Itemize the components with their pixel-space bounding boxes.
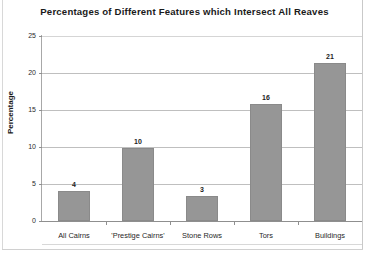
y-tick-mark	[39, 147, 42, 148]
y-tick-label: 10	[6, 143, 36, 151]
x-label-box-bottom	[42, 244, 362, 245]
x-tick-label: Tors	[234, 231, 298, 240]
y-tick-mark	[39, 221, 42, 222]
x-tick-mark	[170, 221, 171, 225]
bar	[250, 104, 282, 221]
x-axis-line	[41, 221, 362, 222]
figure-border-bottom	[2, 249, 363, 250]
x-tick-label: Stone Rows	[170, 231, 234, 240]
x-tick-label: Buildings	[298, 231, 362, 240]
y-tick-label: 15	[6, 106, 36, 114]
x-tick-mark	[234, 221, 235, 225]
x-tick-label: All Cairns	[42, 231, 106, 240]
bar-value-label: 21	[310, 53, 350, 61]
x-tick-label: 'Prestige Cairns'	[106, 231, 170, 240]
figure-caption-partial	[4, 252, 364, 257]
bar	[314, 63, 346, 221]
bar-value-label: 10	[118, 138, 158, 146]
chart-title: Percentages of Different Features which …	[0, 6, 369, 17]
x-tick-mark	[106, 221, 107, 225]
y-tick-label: 20	[6, 69, 36, 77]
chart-figure: Percentages of Different Features which …	[0, 0, 369, 257]
y-axis-line	[41, 35, 42, 222]
y-tick-label: 0	[6, 217, 36, 225]
figure-border-left	[2, 0, 3, 250]
bar-value-label: 4	[54, 181, 94, 189]
bar-value-label: 16	[246, 94, 286, 102]
y-tick-mark	[39, 36, 42, 37]
y-tick-mark	[39, 184, 42, 185]
gridline-25	[42, 36, 362, 37]
y-tick-label: 25	[6, 32, 36, 40]
y-tick-mark	[39, 110, 42, 111]
bar	[122, 148, 154, 221]
x-tick-mark	[298, 221, 299, 225]
bar	[186, 196, 218, 221]
y-tick-label: 5	[6, 180, 36, 188]
figure-border-right	[362, 0, 363, 250]
bar	[58, 191, 90, 221]
bar-value-label: 3	[182, 186, 222, 194]
y-tick-mark	[39, 73, 42, 74]
